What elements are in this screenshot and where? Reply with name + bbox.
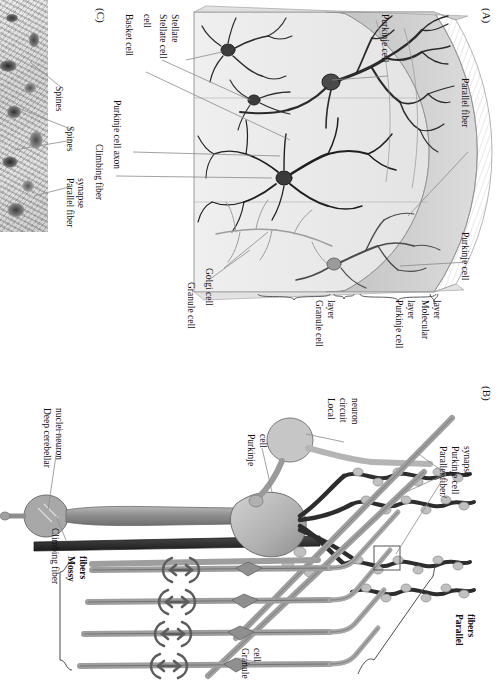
figure-root: (C) Spines Spines Parallel fiber synapse… [0,0,502,698]
panel-b-leader-lines [0,370,502,698]
panel-a-leader-lines [0,0,502,360]
